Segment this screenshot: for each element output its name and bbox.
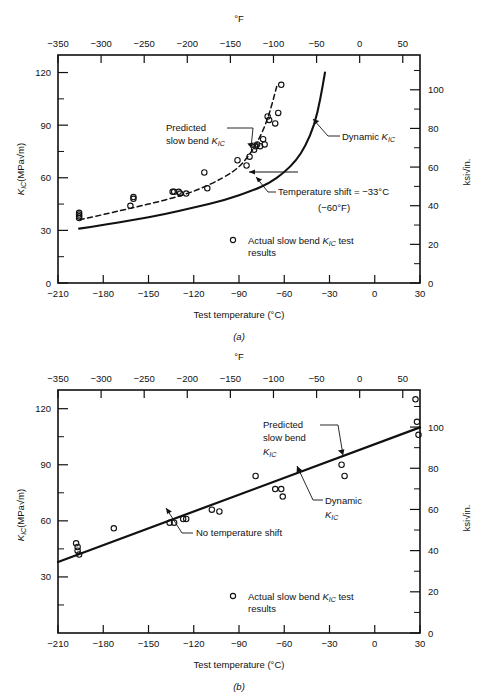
left-tick-label: 60 [40,515,51,526]
left-tick-label: 60 [40,172,51,183]
top-tick-label: −300 [90,373,111,384]
data-points-a [76,82,284,221]
left-tick-label: 90 [40,120,51,131]
svg-text:Dynamic KIC: Dynamic KIC [342,131,396,143]
svg-text:KIC(MPa√m): KIC(MPa√m) [15,489,27,541]
predicted-dynamic-line-b [58,427,420,562]
bottom-axis-title-b: Test temperature (°C) [194,659,285,670]
right-tick-label: 20 [428,239,439,250]
right-tick-label: 20 [428,586,439,597]
legend-marker-open-circle-b [230,593,235,598]
annotation-predicted-slow-bend-a: Predicted slow bend KIC [166,122,254,148]
legend-line1-pre-b: Actual slow bend [248,591,322,602]
bottom-tick-label: −30 [321,288,337,299]
legend-marker-open-circle-a [230,237,235,242]
bottom-tick-label: −210 [47,288,68,299]
annotation-predicted-slow-bend-b: Predicted slow bend KIC [263,419,344,458]
annotation-no-tempshift-text-b: No temperature shift [196,527,282,538]
data-point-open-circle [205,186,210,191]
top-tick-label: −200 [177,373,198,384]
data-point-open-circle [273,486,278,491]
chart-panel-a: °F −350−300−250−200−150−100−50050 −210−1… [0,0,492,350]
svg-text:KIC: KIC [325,509,339,521]
right-tick-label: 100 [428,84,444,95]
annotation-predicted-line2-b: slow bend [263,432,306,443]
svg-text:KIC: KIC [263,446,277,458]
top-tick-label: −100 [263,38,284,49]
top-tick-label: −50 [309,373,325,384]
right-tick-label: 40 [428,545,439,556]
annotation-predicted-line2-pre-a: slow bend [166,135,211,146]
top-tick-label: −100 [263,373,284,384]
right-axis-ticks-a: 020406080100 [410,70,444,288]
legend-line1-post-b: test [336,591,354,602]
annotation-tempshift-line2-a: (−60°F) [318,202,350,213]
predicted-slow-bend-curve-a [79,87,277,220]
annotation-dynamic-kic-b: Dynamic KIC [297,466,363,521]
top-tick-label: 50 [397,373,408,384]
bottom-tick-label: −120 [183,638,204,649]
annotation-dynamic-sub-a: IC [388,136,396,143]
annotation-dynamic-line2-sub-b: IC [331,514,339,521]
left-tick-label: 90 [40,459,51,470]
data-point-open-circle [244,163,249,168]
top-tick-label: −200 [177,38,198,49]
legend-line2-a: results [248,247,276,258]
top-tick-label: −150 [220,373,241,384]
top-tick-label: −300 [90,38,111,49]
legend-a: Actual slow bend KIC test results [230,235,354,258]
bottom-tick-label: −150 [138,288,159,299]
data-point-open-circle [235,158,240,163]
svg-text:Actual slow bend KIC test: Actual slow bend KIC test [248,235,354,247]
annotation-tempshift-line1-a: Temperature shift = −33°C [278,186,389,197]
top-axis-unit-b: °F [234,351,244,362]
data-point-open-circle [202,170,207,175]
top-axis-unit-a: °F [234,13,244,24]
right-axis-title-b: ksi√in. [461,505,472,532]
right-tick-label: 0 [428,278,433,289]
figure-root: °F −350−300−250−200−150−100−50050 −210−1… [0,0,492,700]
top-tick-label: 0 [357,373,362,384]
data-point-open-circle [260,136,265,141]
bottom-tick-label: −150 [138,638,159,649]
top-tick-label: 50 [397,38,408,49]
bottom-axis-ticks-a: −210−180−150−120−90−60−30030 [47,275,425,299]
chart-b-svg: °F −350−300−250−200−150−100−50050 −210−1… [0,350,492,700]
data-point-open-circle [276,110,281,115]
chart-a-svg: °F −350−300−250−200−150−100−50050 −210−1… [0,0,492,350]
bottom-tick-label: −60 [276,638,292,649]
bottom-tick-label: −180 [93,288,114,299]
top-tick-label: −150 [220,38,241,49]
annotation-predicted-line1-a: Predicted [166,122,206,133]
svg-text:KIC(MPa√m): KIC(MPa√m) [15,143,27,195]
top-axis-ticks-b: −350−300−250−200−150−100−50050 [47,373,408,398]
data-point-open-circle [217,509,222,514]
top-tick-label: 0 [357,38,362,49]
annotation-temperature-shift-a: Temperature shift = −33°C (−60°F) [256,177,389,213]
bottom-tick-label: −210 [47,638,68,649]
left-tick-label: 120 [35,67,51,78]
bottom-axis-ticks-b: −210−180−150−120−90−60−30030 [47,625,425,649]
right-tick-label: 0 [428,628,433,639]
legend-line2-b: results [248,603,276,614]
right-tick-label: 60 [428,162,439,173]
svg-text:slow bend KIC: slow bend KIC [166,135,226,147]
bottom-tick-label: −90 [231,638,247,649]
right-axis-ticks-b: 020406080100 [410,406,444,638]
legend-line1-post-a: test [336,235,354,246]
temperature-shift-arrow-a [249,170,298,175]
data-point-open-circle [273,121,278,126]
bottom-tick-label: 30 [415,288,426,299]
data-point-open-circle [209,507,214,512]
top-tick-label: −250 [133,373,154,384]
dynamic-kic-curve-a [79,73,325,229]
annotation-dynamic-pre-a: Dynamic [342,131,382,142]
left-axis-title-rest-a: (MPa√m) [15,143,26,182]
left-tick-label: 120 [35,403,51,414]
data-point-open-circle [280,494,285,499]
panel-label-b: (b) [233,681,245,692]
bottom-tick-label: −120 [183,288,204,299]
right-tick-label: 100 [428,422,444,433]
annotation-predicted-line3-sub-b: IC [269,451,277,458]
bottom-tick-label: −30 [321,638,337,649]
